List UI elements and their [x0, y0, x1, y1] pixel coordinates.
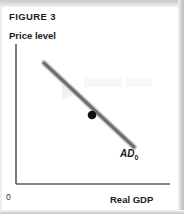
ad-curve-label-text: AD: [120, 148, 134, 159]
ad-curve-label: AD0: [120, 148, 138, 161]
x-axis-label: Real GDP: [110, 194, 153, 205]
equilibrium-point-marker: [88, 111, 97, 120]
ad-curve-label-subscript: 0: [134, 154, 138, 161]
chart-plot-area: [0, 0, 184, 214]
origin-label: 0: [6, 192, 11, 202]
figure-panel: FIGURE 3 Price level AD0 0 Real GDP: [0, 0, 184, 214]
ad-curve-line: [44, 63, 134, 147]
